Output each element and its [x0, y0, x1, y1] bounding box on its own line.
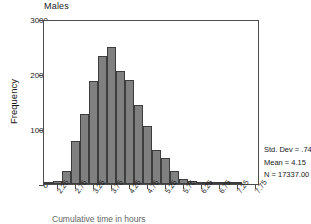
- histogram-bar: [107, 47, 116, 185]
- stat-mean: Mean = 4.15: [264, 157, 311, 170]
- histogram-figure: Males Frequency 0100020003000 2.252.753.…: [0, 0, 311, 224]
- stat-std-dev: Std. Dev = .74: [264, 144, 311, 157]
- histogram-bar: [98, 56, 107, 184]
- plot-area: [44, 21, 258, 184]
- histogram-bar: [143, 126, 152, 184]
- histogram-bar: [125, 80, 134, 184]
- histogram-bar: [44, 182, 53, 184]
- histogram-bar: [134, 105, 143, 184]
- statistics-annotation: Std. Dev = .74 Mean = 4.15 N = 17337.00: [264, 144, 311, 182]
- y-axis-tick-mark: [39, 185, 44, 186]
- page-title: Males: [44, 1, 69, 11]
- histogram-bar: [89, 81, 98, 184]
- histogram-bar: [71, 141, 80, 184]
- plot-frame: [43, 20, 259, 185]
- y-axis-label: Frequency: [8, 66, 19, 138]
- stat-n: N = 17337.00: [264, 169, 311, 182]
- x-axis-label: Cumulative time in hours: [52, 214, 146, 224]
- histogram-bar: [116, 71, 125, 184]
- histogram-bar: [80, 114, 89, 184]
